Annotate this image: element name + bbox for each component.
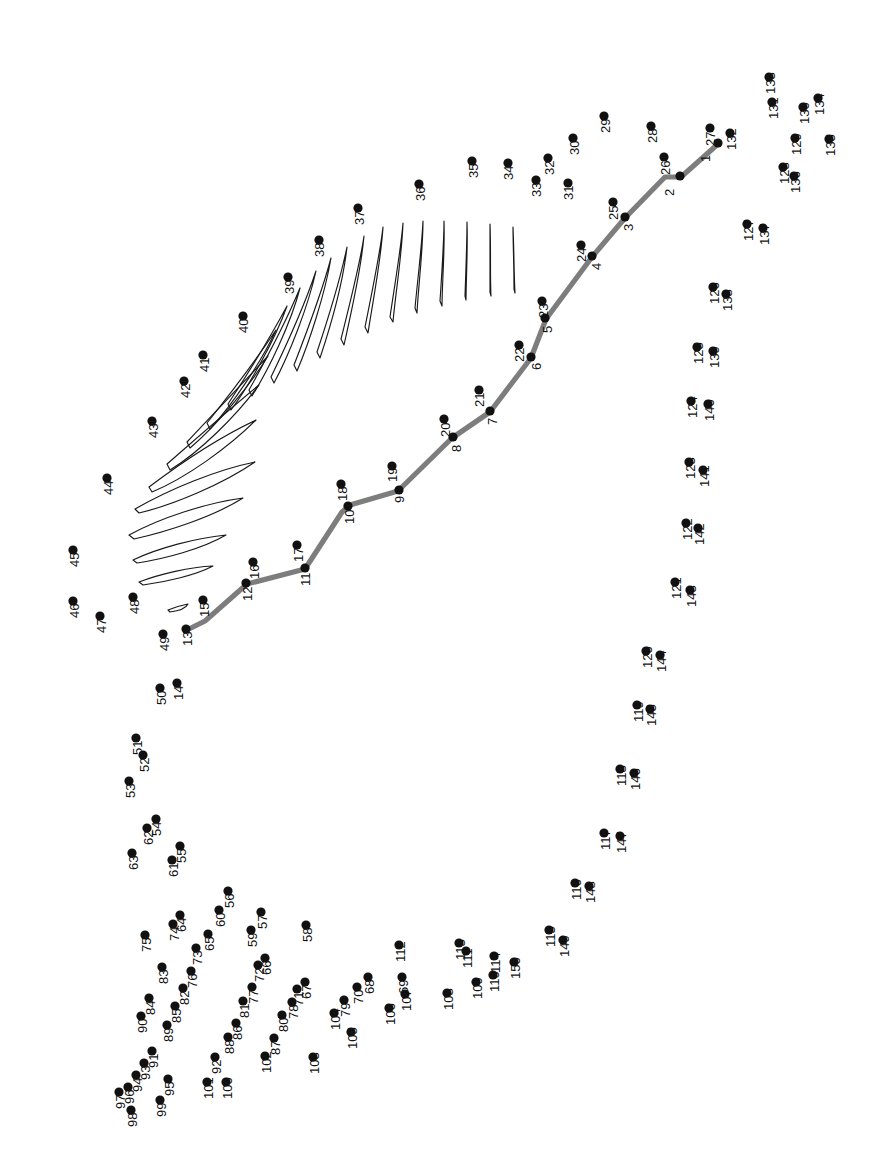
- dot-label-108: 108: [441, 988, 456, 1010]
- dot-label-106: 106: [383, 1003, 398, 1025]
- dot-label-84: 84: [143, 1001, 158, 1015]
- dot-label-12: 12: [240, 587, 255, 601]
- dot-label-149: 149: [557, 935, 572, 957]
- dot-label-31: 31: [561, 186, 576, 200]
- dot-label-107: 107: [399, 989, 414, 1011]
- dot-label-10: 10: [342, 510, 357, 524]
- dot-label-75: 75: [139, 938, 154, 952]
- dot-label-72: 72: [252, 968, 267, 982]
- dot-label-103: 103: [307, 1052, 322, 1074]
- dot-label-133: 133: [763, 72, 778, 94]
- dot-label-44: 44: [101, 481, 116, 495]
- dot-label-138: 138: [720, 289, 735, 311]
- dot-label-17: 17: [291, 548, 306, 562]
- dot-label-120: 120: [640, 646, 655, 668]
- dot-label-137: 137: [757, 223, 772, 245]
- dot-label-32: 32: [542, 161, 557, 175]
- dot-27[interactable]: [705, 123, 714, 132]
- dot-label-74: 74: [167, 927, 182, 941]
- dot-label-21: 21: [472, 393, 487, 407]
- dot-label-45: 45: [67, 553, 82, 567]
- dot-6[interactable]: [526, 352, 535, 361]
- dot-label-55: 55: [174, 849, 189, 863]
- dot-2[interactable]: [675, 171, 684, 180]
- dot-label-95: 95: [162, 1082, 177, 1096]
- dot-label-131: 131: [766, 97, 781, 119]
- dot-label-24: 24: [574, 248, 589, 262]
- dot-label-127: 127: [741, 219, 756, 241]
- dot-label-52: 52: [137, 758, 152, 772]
- dot-label-37: 37: [352, 211, 367, 225]
- dot-label-3: 3: [621, 224, 636, 231]
- dot-label-142: 142: [692, 523, 707, 545]
- dot-label-109: 109: [470, 977, 485, 999]
- dot-3[interactable]: [620, 212, 629, 221]
- dot-label-101: 101: [201, 1077, 216, 1099]
- puzzle-canvas: 1234567891011121314151617181920212223242…: [0, 0, 880, 1175]
- dot-label-92: 92: [209, 1060, 224, 1074]
- dot-25[interactable]: [608, 197, 617, 206]
- dot-label-26: 26: [658, 161, 673, 175]
- dot-label-27: 27: [703, 132, 718, 146]
- dot-label-59: 59: [245, 933, 260, 947]
- dot-label-41: 41: [197, 358, 212, 372]
- dot-label-100: 100: [220, 1077, 235, 1099]
- dot-label-144: 144: [654, 650, 669, 672]
- dot-label-47: 47: [94, 619, 109, 633]
- dot-label-71: 71: [291, 992, 306, 1006]
- dot-label-125: 125: [691, 342, 706, 364]
- dot-label-5: 5: [540, 326, 555, 333]
- dot-label-83: 83: [156, 970, 171, 984]
- dot-label-140: 140: [702, 399, 717, 421]
- dot-label-98: 98: [125, 1113, 140, 1127]
- dot-label-7: 7: [485, 418, 500, 425]
- dot-26[interactable]: [659, 152, 668, 161]
- dot-label-29: 29: [598, 119, 613, 133]
- page-background: [0, 0, 880, 1175]
- dot-label-18: 18: [335, 487, 350, 501]
- dot-label-104: 104: [328, 1008, 343, 1030]
- dot-label-136: 136: [788, 171, 803, 193]
- dot-label-121: 121: [669, 577, 684, 599]
- dot-label-146: 146: [628, 768, 643, 790]
- dot-10[interactable]: [343, 501, 352, 510]
- dot-11[interactable]: [300, 563, 309, 572]
- dot-label-13: 13: [180, 632, 195, 646]
- dot-label-139: 139: [707, 346, 722, 368]
- dot-20[interactable]: [439, 414, 448, 423]
- dot-label-70: 70: [351, 990, 366, 1004]
- dot-label-39: 39: [282, 280, 297, 294]
- dot-label-141: 141: [697, 465, 712, 487]
- dot-label-115: 115: [543, 926, 558, 947]
- dot-label-51: 51: [130, 741, 145, 755]
- dot-label-129: 129: [789, 133, 804, 155]
- dot-label-85: 85: [169, 1009, 184, 1023]
- dot-label-23: 23: [536, 304, 551, 318]
- dot-label-33: 33: [529, 183, 544, 197]
- dot-label-105: 105: [345, 1027, 360, 1049]
- dot-label-11: 11: [298, 573, 313, 587]
- dot-label-63: 63: [126, 856, 141, 870]
- dot-label-15: 15: [197, 603, 212, 617]
- dot-label-114: 114: [488, 952, 503, 973]
- feather-barb-21: [490, 224, 491, 296]
- dot-label-19: 19: [385, 468, 400, 482]
- dot-label-86: 86: [230, 1026, 245, 1040]
- dot-9[interactable]: [394, 485, 403, 494]
- dot-label-80: 80: [276, 1018, 291, 1032]
- dot-label-143: 143: [684, 585, 699, 607]
- dot-label-118: 118: [614, 765, 629, 786]
- dot-label-53: 53: [123, 784, 138, 798]
- dot-label-22: 22: [512, 348, 527, 362]
- dot-label-117: 117: [598, 829, 613, 850]
- dot-label-110: 110: [487, 971, 502, 992]
- dot-label-150: 150: [508, 957, 523, 979]
- dot-label-90: 90: [135, 1019, 150, 1033]
- dot-label-112: 112: [393, 941, 408, 962]
- dot-label-57: 57: [255, 915, 270, 929]
- dot-label-50: 50: [154, 691, 169, 705]
- dot-label-88: 88: [222, 1040, 237, 1054]
- dot-label-123: 123: [683, 457, 698, 479]
- dot-label-145: 145: [644, 704, 659, 726]
- dot-label-2: 2: [662, 189, 677, 196]
